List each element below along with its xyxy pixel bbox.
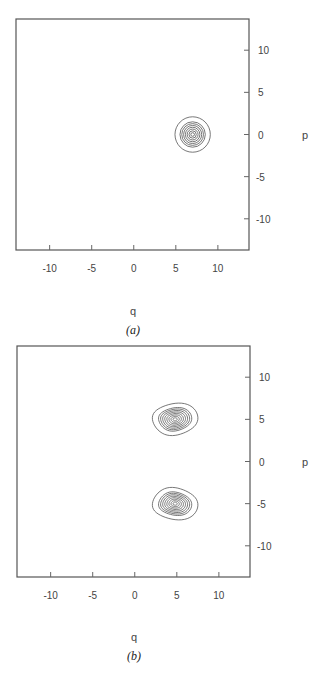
- plot-frame: [17, 346, 250, 577]
- x-tick-label: -10: [43, 590, 57, 601]
- x-tick-label: 0: [132, 590, 138, 601]
- y-tick-label: -5: [257, 498, 266, 509]
- contour-peak: [152, 403, 198, 436]
- y-tick-label: 5: [259, 414, 265, 425]
- x-axis-label-b: q: [131, 631, 137, 643]
- contour-peak: [152, 487, 198, 520]
- y-tick-label: 10: [259, 372, 270, 383]
- x-tick-label: -5: [88, 590, 97, 601]
- caption-b: (b): [127, 649, 141, 664]
- y-tick-label: 0: [259, 456, 265, 467]
- phase-space-plot-b: q p (b) -10-505101050-5-10: [0, 0, 325, 674]
- plot-area-b: [0, 0, 325, 674]
- y-tick-label: -10: [257, 540, 271, 551]
- y-axis-label-b: p: [302, 456, 308, 468]
- x-tick-label: 5: [174, 590, 180, 601]
- x-tick-label: 10: [213, 590, 224, 601]
